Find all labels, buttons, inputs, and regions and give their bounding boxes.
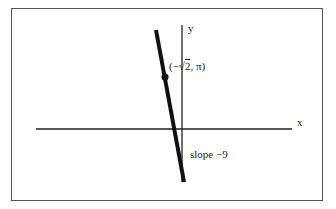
y-axis-label: y: [188, 22, 194, 34]
point-label: (−√2, π): [169, 60, 205, 72]
point-marker: [162, 74, 169, 81]
diagram-canvas: [0, 0, 336, 209]
slope-annotation: slope −9: [190, 148, 228, 160]
slope-line: [156, 30, 184, 182]
x-axis-label: x: [297, 116, 303, 128]
